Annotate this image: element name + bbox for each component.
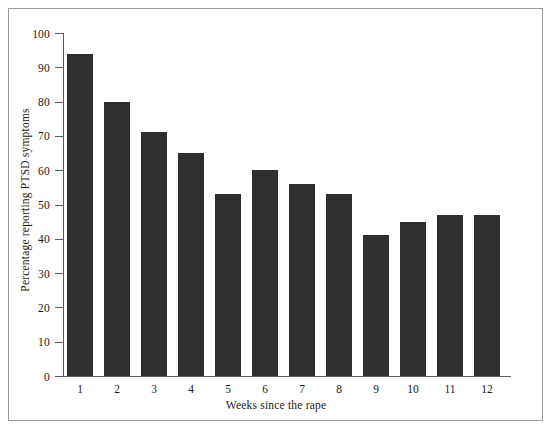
x-axis-tick-label: 6 xyxy=(252,383,278,395)
y-axis-tick: 70 xyxy=(55,136,63,137)
y-axis-tick: 60 xyxy=(55,170,63,171)
x-axis-tick-label: 4 xyxy=(178,383,204,395)
bar xyxy=(400,222,426,376)
y-axis-tick-label: 70 xyxy=(38,130,50,142)
bar xyxy=(252,170,278,376)
y-axis-tick: 0 xyxy=(55,376,63,377)
x-axis-title: Weeks since the rape xyxy=(0,399,552,411)
bar xyxy=(437,215,463,376)
x-axis-tick-label: 10 xyxy=(400,383,426,395)
y-axis-tick: 100 xyxy=(55,33,63,34)
y-axis-tick: 50 xyxy=(55,205,63,206)
y-axis-tick: 30 xyxy=(55,273,63,274)
bar xyxy=(474,215,500,376)
y-axis-title: Percentage reporting PTSD symptoms xyxy=(17,0,33,400)
plot-area xyxy=(67,33,510,376)
y-axis-line xyxy=(63,33,64,377)
x-axis-tick-label: 12 xyxy=(474,383,500,395)
x-axis-tick-label: 5 xyxy=(215,383,241,395)
x-axis-tick-label: 1 xyxy=(67,383,93,395)
y-axis-tick-label: 90 xyxy=(38,62,50,74)
y-axis-tick-label: 30 xyxy=(38,268,50,280)
x-axis-tick-label: 3 xyxy=(141,383,167,395)
y-axis-tick-label: 50 xyxy=(38,199,50,211)
bar xyxy=(289,184,315,376)
x-axis-tick-label: 9 xyxy=(363,383,389,395)
x-axis-tick-label: 7 xyxy=(289,383,315,395)
bar xyxy=(141,132,167,376)
y-axis-tick: 40 xyxy=(55,239,63,240)
figure-container: Percentage reporting PTSD symptoms 01020… xyxy=(0,0,552,430)
bar xyxy=(215,194,241,376)
y-axis-tick: 20 xyxy=(55,307,63,308)
y-axis-tick-label: 20 xyxy=(38,302,50,314)
x-axis-tick-label: 8 xyxy=(326,383,352,395)
x-axis-tick-label: 2 xyxy=(104,383,130,395)
bar xyxy=(178,153,204,376)
y-axis-tick: 80 xyxy=(55,102,63,103)
y-axis-tick-label: 0 xyxy=(44,371,50,383)
y-axis-title-label: Percentage reporting PTSD symptoms xyxy=(19,108,31,291)
x-axis-tick-label: 11 xyxy=(437,383,463,395)
y-axis-tick-label: 10 xyxy=(38,336,50,348)
bar xyxy=(67,54,93,376)
y-axis-tick-label: 60 xyxy=(38,165,50,177)
y-axis-tick: 10 xyxy=(55,342,63,343)
y-axis-tick: 90 xyxy=(55,67,63,68)
x-axis-line xyxy=(63,376,511,377)
bar xyxy=(326,194,352,376)
bar xyxy=(104,102,130,376)
y-axis-tick-label: 40 xyxy=(38,233,50,245)
y-axis-tick-label: 100 xyxy=(32,28,50,40)
bar xyxy=(363,235,389,376)
y-axis-tick-label: 80 xyxy=(38,96,50,108)
